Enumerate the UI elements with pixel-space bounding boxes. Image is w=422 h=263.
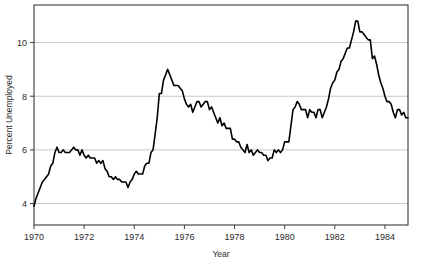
y-tick-label-4: 4 bbox=[22, 199, 27, 209]
x-tick-label-1984: 1984 bbox=[375, 232, 395, 242]
unemployment-line-chart: 46810 19701972197419761978198019821984 P… bbox=[0, 0, 422, 263]
x-tick-label-1980: 1980 bbox=[275, 232, 295, 242]
y-axis-title: Percent Unemployed bbox=[4, 75, 14, 155]
y-tick-label-10: 10 bbox=[17, 38, 27, 48]
chart-canvas: 46810 19701972197419761978198019821984 P… bbox=[0, 0, 422, 263]
x-axis-title: Year bbox=[212, 249, 229, 259]
x-tick-label-1982: 1982 bbox=[325, 232, 345, 242]
x-tick-label-1974: 1974 bbox=[124, 232, 144, 242]
x-tick-label-1972: 1972 bbox=[74, 232, 94, 242]
chart-background bbox=[0, 0, 422, 263]
y-tick-label-8: 8 bbox=[22, 92, 27, 102]
x-tick-label-1978: 1978 bbox=[225, 232, 245, 242]
y-tick-label-6: 6 bbox=[22, 145, 27, 155]
x-tick-label-1976: 1976 bbox=[174, 232, 194, 242]
x-tick-label-1970: 1970 bbox=[24, 232, 44, 242]
